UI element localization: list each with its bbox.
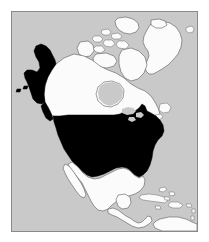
map-figure bbox=[0, 0, 209, 242]
map-frame-border bbox=[11, 11, 198, 232]
north-america-map bbox=[12, 12, 197, 231]
region-banks-island bbox=[77, 41, 94, 57]
region-jamaica bbox=[155, 206, 161, 209]
region-puerto-rico bbox=[186, 204, 192, 207]
